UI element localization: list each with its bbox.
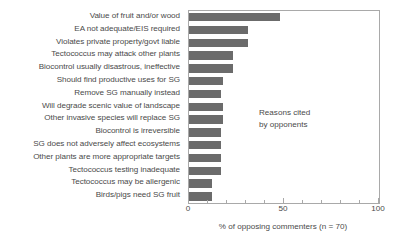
bar-row xyxy=(189,177,379,190)
bar-row xyxy=(189,139,379,152)
x-tick-label: 100 xyxy=(371,204,385,213)
bar-row xyxy=(189,152,379,165)
plot-annotation: Reasons cited by opponents xyxy=(259,107,310,130)
x-axis-title: % of opposing commenters (n = 70) xyxy=(188,222,378,231)
x-tick-minor xyxy=(226,200,227,203)
bar-row xyxy=(189,190,379,203)
bar xyxy=(189,13,280,21)
category-label: Tectococcus may be allergenic xyxy=(0,176,184,189)
category-label: Other invasive species will replace SG xyxy=(0,112,184,125)
bar-row xyxy=(189,49,379,62)
category-label: Tectococcus may attack other plants xyxy=(0,48,184,61)
category-label: Remove SG manually instead xyxy=(0,87,184,100)
bar-row xyxy=(189,24,379,37)
category-label: SG does not adversely affect ecosystems xyxy=(0,138,184,151)
category-label: EA not adequate/EIS required xyxy=(0,23,184,36)
plot-area: Reasons cited by opponents xyxy=(188,10,380,204)
category-label: Biocontrol usually disastrous, ineffecti… xyxy=(0,61,184,74)
category-label: Other plants are more appropriate target… xyxy=(0,151,184,164)
x-tick-minor xyxy=(264,200,265,203)
bar xyxy=(189,192,212,200)
bar-row xyxy=(189,62,379,75)
bar xyxy=(189,103,223,111)
bar xyxy=(189,64,233,72)
x-tick-minor xyxy=(340,200,341,203)
bar xyxy=(189,39,248,47)
bar xyxy=(189,26,248,34)
x-tick-label: 0 xyxy=(186,204,191,213)
category-label: Birds/pigs need SG fruit xyxy=(0,189,184,202)
x-tick-major xyxy=(378,198,379,203)
x-tick-label: 50 xyxy=(278,204,287,213)
category-label: Tectococcus testing inadequate xyxy=(0,164,184,177)
bar-chart: Value of fruit and/or woodEA not adequat… xyxy=(0,0,401,247)
bar-row xyxy=(189,75,379,88)
category-label: Should find productive uses for SG xyxy=(0,74,184,87)
bar xyxy=(189,51,233,59)
x-tick-major xyxy=(283,198,284,203)
category-label: Violates private property/govt liable xyxy=(0,36,184,49)
x-tick-major xyxy=(188,198,189,203)
category-label: Value of fruit and/or wood xyxy=(0,10,184,23)
x-tick-minor xyxy=(245,200,246,203)
bar-row xyxy=(189,37,379,50)
x-tick-minor xyxy=(359,200,360,203)
annotation-line-2: by opponents xyxy=(259,119,310,131)
bar-row xyxy=(189,88,379,101)
annotation-line-1: Reasons cited xyxy=(259,107,310,119)
x-tick-minor xyxy=(207,200,208,203)
bar xyxy=(189,141,221,149)
bar xyxy=(189,115,223,123)
category-label: Biocontrol is irreversible xyxy=(0,125,184,138)
category-labels-axis: Value of fruit and/or woodEA not adequat… xyxy=(0,10,184,202)
bar xyxy=(189,90,221,98)
bar xyxy=(189,167,221,175)
category-label: Will degrade scenic value of landscape xyxy=(0,100,184,113)
bar xyxy=(189,154,221,162)
x-tick-minor xyxy=(321,200,322,203)
x-tick-minor xyxy=(302,200,303,203)
bar-row xyxy=(189,165,379,178)
bar xyxy=(189,128,221,136)
bar xyxy=(189,179,212,187)
bar-row xyxy=(189,11,379,24)
bar xyxy=(189,77,223,85)
